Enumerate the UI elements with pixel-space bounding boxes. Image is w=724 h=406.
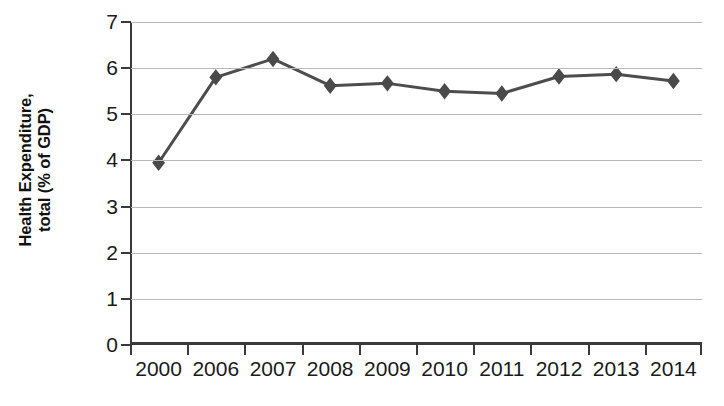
y-axis-tick-label: 0: [84, 333, 118, 357]
gridline: [130, 160, 702, 161]
y-axis-tick-mark: [121, 113, 131, 115]
data-point-marker: [611, 67, 622, 81]
x-axis-tick-label: 2007: [250, 357, 297, 381]
x-axis-tick-mark: [244, 344, 246, 355]
y-axis-tick-mark: [121, 206, 131, 208]
y-axis-title-line1: Health Expenditure,: [16, 93, 34, 246]
line-series: [130, 22, 702, 345]
x-axis-tick-mark: [645, 344, 647, 355]
gridline: [130, 207, 702, 208]
gridline: [130, 114, 702, 115]
y-axis-tick-label: 2: [84, 241, 118, 265]
x-axis-tick-mark: [416, 344, 418, 355]
x-axis-tick-mark: [473, 344, 475, 355]
y-axis-tick-label: 6: [84, 56, 118, 80]
x-axis-tick-mark: [359, 344, 361, 355]
data-point-marker: [668, 74, 679, 88]
y-axis-tick-label: 3: [84, 195, 118, 219]
data-point-marker: [268, 52, 279, 66]
x-axis-tick-label: 2012: [536, 357, 583, 381]
data-point-marker: [382, 76, 393, 90]
x-axis-tick-mark: [302, 344, 304, 355]
x-axis-tick-mark: [700, 344, 702, 355]
x-axis-tick-label: 2008: [307, 357, 354, 381]
x-axis-tick-mark: [588, 344, 590, 355]
y-axis-tick-mark: [121, 21, 131, 23]
y-axis-tick-mark: [121, 252, 131, 254]
x-axis-tick-mark: [530, 344, 532, 355]
gridline: [130, 299, 702, 300]
x-axis-tick-label: 2000: [135, 357, 182, 381]
series-line: [159, 59, 674, 163]
data-point-marker: [325, 79, 336, 93]
x-axis-tick-label: 2009: [364, 357, 411, 381]
gridline: [130, 253, 702, 254]
y-axis-tick-label: 5: [84, 102, 118, 126]
y-axis-tick-label: 4: [84, 148, 118, 172]
x-axis-tick-label: 2010: [421, 357, 468, 381]
gridline: [130, 22, 702, 23]
y-axis-tick-mark: [121, 67, 131, 69]
y-axis-tick-label: 7: [84, 10, 118, 34]
y-axis-title: Health Expenditure, total (% of GDP): [0, 0, 70, 340]
y-axis-title-line2: total (% of GDP): [35, 93, 54, 246]
x-axis-tick-label: 2011: [479, 357, 524, 381]
x-axis-tick-label: 2014: [650, 357, 697, 381]
y-axis-tick-mark: [121, 298, 131, 300]
data-point-marker: [496, 87, 507, 101]
x-axis-tick-mark: [187, 344, 189, 355]
y-axis-tick-labels: 01234567: [72, 0, 118, 406]
x-axis-tick-mark: [130, 344, 132, 355]
x-axis-tick-label: 2006: [192, 357, 239, 381]
x-axis-tick-label: 2013: [593, 357, 640, 381]
chart-page: Health Expenditure, total (% of GDP) 012…: [0, 0, 724, 406]
gridline: [130, 68, 702, 69]
data-point-marker: [439, 84, 450, 98]
y-axis-tick-mark: [121, 159, 131, 161]
plot-area: [130, 22, 702, 345]
data-point-marker: [554, 69, 565, 83]
x-axis-tick-labels: 2000200620072008200920102011201220132014: [130, 357, 702, 397]
y-axis-tick-label: 1: [84, 287, 118, 311]
